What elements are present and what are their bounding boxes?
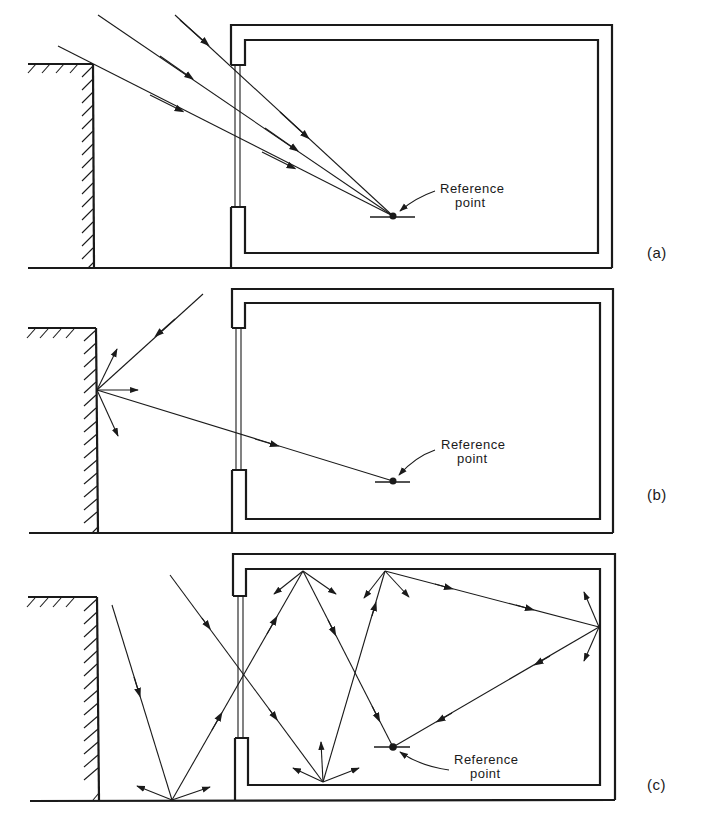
panel-label-b: (b) [647,486,667,503]
reference-label: Reference [441,437,505,452]
ground-line [30,800,615,801]
reference-label-2: point [457,451,488,466]
panel-label-c: (c) [647,776,666,793]
window [238,596,243,738]
hatching [28,64,94,268]
reference-label-2: point [470,766,501,781]
reference-point [375,478,410,485]
reference-arrow [399,450,435,475]
reference-label: Reference [454,752,518,767]
panel-c: Reference point (c) [27,554,666,801]
hatching [27,598,99,800]
reference-arrow [400,752,449,770]
panel-b: Reference point (b) [27,289,667,533]
obstruction-building [27,597,99,800]
interreflected-rays [112,571,599,800]
room-walls [232,289,613,533]
panel-a: Reference point (a) [28,15,667,268]
daylight-diagram: Reference point (a) [0,0,701,817]
room-walls [231,25,612,268]
window [236,328,241,470]
reference-point [370,213,415,220]
reference-label-2: point [455,195,486,210]
obstruction-building [28,64,94,268]
obstruction-building [27,328,98,533]
reference-point [374,743,410,751]
sky-rays [58,15,393,216]
room-walls [233,554,615,800]
reference-label: Reference [440,181,504,196]
reference-arrow [400,191,435,211]
hatching [27,329,98,533]
panel-label-a: (a) [647,244,667,261]
